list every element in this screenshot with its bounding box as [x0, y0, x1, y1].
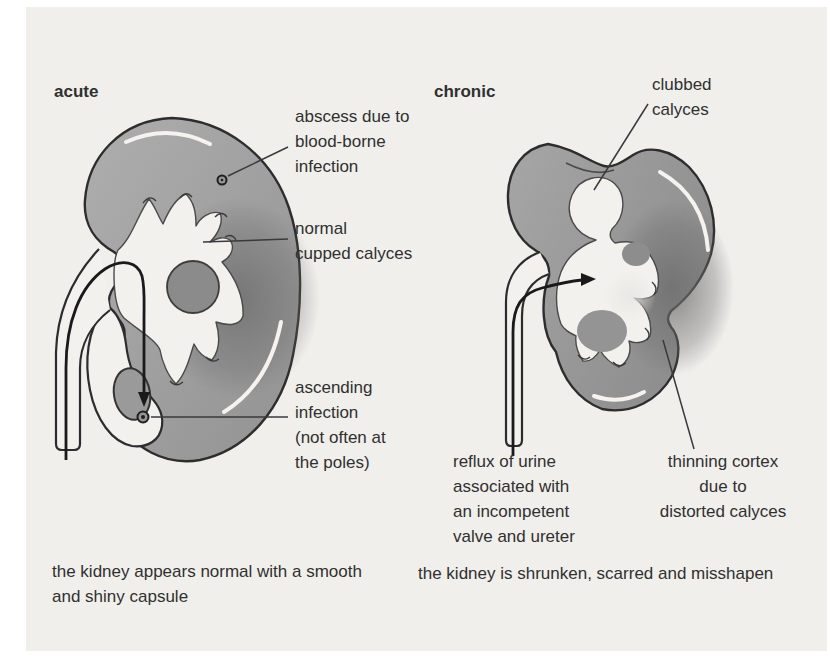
panel-label-acute: acute [54, 79, 98, 104]
abscess-marker [218, 176, 227, 185]
chronic-pyramid-upper [622, 242, 650, 266]
caption-acute-kidney: the kidney appears normal with a smooth … [52, 559, 362, 609]
annotation-reflux-of-urine: reflux of urine associated with an incom… [453, 449, 575, 549]
annotation-ascending-infection: ascending infection (not often at the po… [295, 375, 386, 475]
annotation-thinning-cortex: thinning cortex due to distorted calyces [640, 449, 806, 524]
chronic-pyramid-lower [577, 310, 627, 352]
annotation-cupped-calyces: normal cupped calyces [295, 216, 412, 266]
annotation-abscess: abscess due to blood-borne infection [295, 104, 409, 179]
ascending-infection-marker [138, 412, 149, 423]
chronic-kidney-illustration [506, 104, 734, 456]
acute-central-pyramid [167, 261, 219, 313]
acute-kidney-illustration [56, 118, 320, 461]
annotation-clubbed-calyces: clubbed calyces [652, 72, 712, 122]
caption-chronic-kidney: the kidney is shrunken, scarred and miss… [418, 561, 773, 586]
panel-label-chronic: chronic [434, 79, 495, 104]
diagram-page: acute chronic abscess due to blood-borne… [0, 0, 830, 666]
